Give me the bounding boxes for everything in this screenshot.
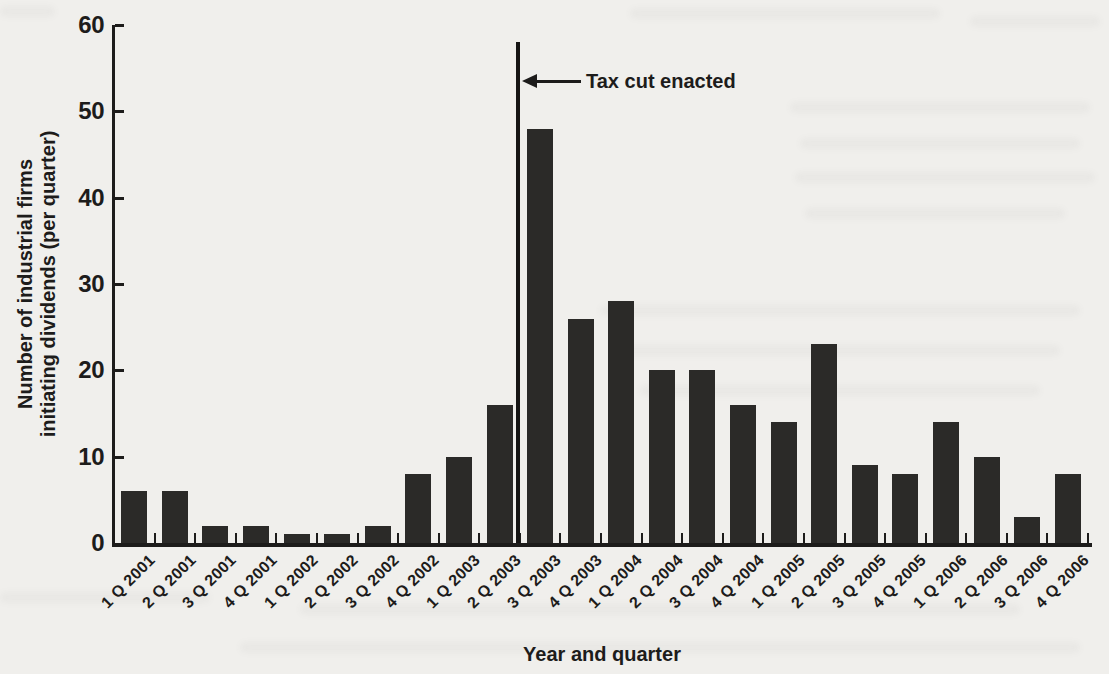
bar bbox=[324, 534, 350, 543]
x-tick-mark bbox=[925, 533, 927, 543]
bar bbox=[730, 405, 756, 543]
x-tick-mark bbox=[641, 533, 643, 543]
bar bbox=[771, 422, 797, 543]
bar bbox=[608, 301, 634, 543]
bar bbox=[162, 491, 188, 543]
bar bbox=[202, 526, 228, 543]
bar bbox=[121, 491, 147, 543]
x-tick-mark bbox=[235, 533, 237, 543]
x-tick-mark bbox=[803, 533, 805, 543]
x-tick-mark bbox=[1006, 533, 1008, 543]
y-tick-label: 50 bbox=[36, 97, 104, 125]
x-tick-mark bbox=[316, 533, 318, 543]
x-tick-mark bbox=[397, 533, 399, 543]
bar bbox=[689, 370, 715, 543]
x-tick-mark bbox=[600, 533, 602, 543]
x-tick-mark bbox=[1087, 533, 1089, 543]
bar bbox=[811, 344, 837, 543]
x-tick-mark bbox=[965, 533, 967, 543]
bar bbox=[405, 474, 431, 543]
scanned-book-page: Number of industrial firms initiating di… bbox=[0, 0, 1109, 674]
bar bbox=[649, 370, 675, 543]
bar bbox=[284, 534, 310, 543]
bar bbox=[852, 465, 878, 543]
y-axis-title-line-1: Number of industrial firms bbox=[14, 159, 36, 409]
y-tick-mark bbox=[115, 197, 124, 200]
x-axis-title: Year and quarter bbox=[114, 643, 1090, 666]
x-tick-mark bbox=[194, 533, 196, 543]
tax-cut-annotation-label: Tax cut enacted bbox=[586, 68, 736, 94]
y-tick-mark bbox=[115, 24, 124, 27]
bar bbox=[446, 457, 472, 543]
x-tick-mark bbox=[154, 533, 156, 543]
y-tick-label: 10 bbox=[36, 443, 104, 471]
arrow-head-icon bbox=[522, 74, 537, 88]
x-tick-mark bbox=[844, 533, 846, 543]
y-tick-label: 0 bbox=[36, 529, 104, 557]
y-tick-label: 30 bbox=[36, 270, 104, 298]
y-tick-mark bbox=[115, 369, 124, 372]
x-tick-mark bbox=[275, 533, 277, 543]
bar bbox=[365, 526, 391, 543]
x-tick-mark bbox=[559, 533, 561, 543]
bar bbox=[974, 457, 1000, 543]
bar bbox=[1055, 474, 1081, 543]
bar bbox=[243, 526, 269, 543]
bar bbox=[892, 474, 918, 543]
x-tick-mark bbox=[681, 533, 683, 543]
x-tick-mark bbox=[438, 533, 440, 543]
x-tick-mark bbox=[1046, 533, 1048, 543]
bar bbox=[487, 405, 513, 543]
y-tick-label: 60 bbox=[36, 11, 104, 39]
y-tick-mark bbox=[115, 283, 124, 286]
x-tick-mark bbox=[357, 533, 359, 543]
y-tick-mark bbox=[115, 110, 124, 113]
y-tick-label: 20 bbox=[36, 356, 104, 384]
bar bbox=[527, 129, 553, 543]
y-tick-label: 40 bbox=[36, 184, 104, 212]
y-axis-line bbox=[112, 25, 115, 547]
dividend-initiations-bar-chart: Number of industrial firms initiating di… bbox=[0, 0, 1109, 674]
arrow-shaft bbox=[536, 80, 581, 83]
bar bbox=[933, 422, 959, 543]
bar bbox=[568, 319, 594, 543]
x-tick-mark bbox=[884, 533, 886, 543]
x-tick-mark bbox=[722, 533, 724, 543]
x-tick-mark bbox=[478, 533, 480, 543]
x-tick-mark bbox=[762, 533, 764, 543]
y-tick-mark bbox=[115, 456, 124, 459]
tax-cut-event-line bbox=[516, 42, 520, 543]
bar bbox=[1014, 517, 1040, 543]
x-axis-line bbox=[112, 543, 1092, 547]
